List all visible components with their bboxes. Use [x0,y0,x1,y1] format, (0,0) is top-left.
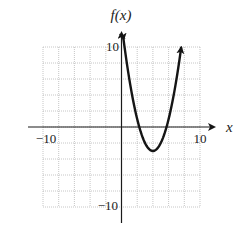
x-tick-max: 10 [194,131,207,146]
y-tick-min: −10 [98,198,118,213]
function-graph: f(x) x −10 10 10 −10 [0,0,252,230]
x-axis-label: x [225,119,233,135]
parabola-curve [123,39,181,151]
x-tick-min: −10 [36,131,56,146]
y-tick-max: 10 [106,39,119,54]
y-axis-label: f(x) [111,7,132,24]
